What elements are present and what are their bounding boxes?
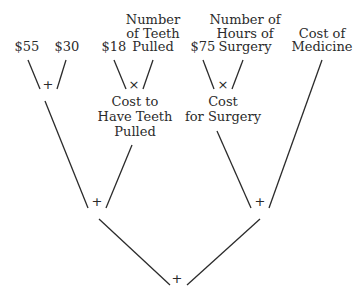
node-cost-to-have-teeth-pulled: Cost to Have Teeth Pulled: [98, 94, 174, 139]
plus-operator: +: [255, 194, 266, 209]
edge: [45, 101, 88, 208]
plus-operator: +: [92, 194, 103, 209]
label-line: Have Teeth: [98, 109, 174, 124]
label-line: Surgery: [218, 39, 272, 54]
label-line: for Surgery: [185, 109, 262, 124]
label-line: Number: [126, 12, 181, 27]
label-line: Cost to: [112, 94, 159, 109]
times-operator: ×: [218, 77, 229, 92]
label-line: Pulled: [132, 39, 173, 54]
label-line: Number of: [209, 12, 281, 27]
leaf-number-of-teeth-pulled: Number of Teeth Pulled: [126, 12, 181, 54]
edge: [187, 219, 260, 285]
edge: [57, 60, 66, 89]
edge: [106, 145, 132, 208]
label-line: Cost: [208, 94, 238, 109]
edge: [269, 60, 322, 208]
edge: [28, 60, 40, 89]
times-operator: ×: [129, 77, 140, 92]
edge: [217, 131, 251, 208]
leaf-55: $55: [15, 39, 40, 54]
edge: [203, 60, 214, 89]
edge: [143, 60, 153, 89]
edge: [99, 219, 170, 285]
leaf-18: $18: [102, 39, 127, 54]
node-cost-for-surgery: Cost for Surgery: [185, 94, 262, 124]
label-line: Medicine: [292, 39, 353, 54]
leaf-cost-of-medicine: Cost of Medicine: [292, 26, 353, 54]
edge: [114, 60, 126, 89]
leaf-number-of-hours-of-surgery: Number of Hours of Surgery: [209, 12, 281, 54]
root-plus-operator: +: [172, 271, 183, 286]
leaf-30: $30: [55, 39, 80, 54]
label-line: Pulled: [114, 124, 155, 139]
leaf-75: $75: [191, 39, 216, 54]
plus-operator: +: [43, 77, 54, 92]
edge: [232, 60, 243, 89]
expression-tree-diagram: $55 $30 $18 Number of Teeth Pulled $75 N…: [0, 0, 358, 296]
